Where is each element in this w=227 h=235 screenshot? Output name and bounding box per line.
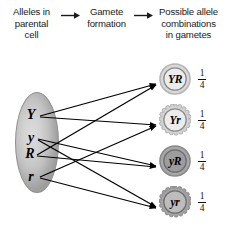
gamete-label: YR: [159, 63, 191, 95]
gamete-label: yr: [159, 186, 191, 218]
header-column-alleles: Alleles in parental cell: [3, 6, 61, 41]
gamete-fraction: 1 4: [198, 191, 206, 213]
fraction-numerator: 1: [199, 68, 206, 79]
gamete-formation-diagram: Alleles in parental cell Gamete formatio…: [0, 0, 227, 235]
fraction-numerator: 1: [199, 150, 206, 161]
gamete-cell-scalloped: Yr: [159, 104, 191, 136]
header-line: Alleles in: [3, 6, 61, 18]
gamete-row: yR 1 4: [159, 145, 227, 177]
gamete-fraction: 1 4: [198, 109, 206, 131]
arrow-r-to-yr: [40, 178, 156, 208]
header-line: combinations: [153, 18, 225, 30]
fraction-denominator: 4: [199, 162, 206, 173]
gamete-row: Yr 1 4: [159, 104, 227, 136]
right-arrow-icon: [61, 10, 80, 21]
header-line: formation: [80, 18, 134, 30]
allele-label-r: r: [23, 170, 39, 184]
header-line: cell: [3, 29, 61, 41]
header-column-possible-combinations: Possible allele combinations in gametes: [153, 6, 225, 41]
gamete-cell-smooth: YR: [159, 63, 191, 95]
fraction-denominator: 4: [199, 203, 206, 214]
right-arrow-icon: [134, 10, 153, 21]
gamete-cell-smooth: yR: [159, 145, 191, 177]
gamete-row: YR 1 4: [159, 63, 227, 95]
fraction-denominator: 4: [199, 80, 206, 91]
gamete-fraction: 1 4: [198, 68, 206, 90]
allele-label-y: y: [23, 131, 39, 145]
header-line: Possible allele: [153, 6, 225, 18]
allele-label-R: R: [22, 147, 38, 161]
diagram-header: Alleles in parental cell Gamete formatio…: [0, 6, 227, 41]
gamete-row: yr 1 4: [159, 186, 227, 218]
header-line: parental: [3, 18, 61, 30]
gamete-label: Yr: [159, 104, 191, 136]
fraction-denominator: 4: [199, 121, 206, 132]
gamete-cell-scalloped: yr: [159, 186, 191, 218]
arrow-Y-to-YR: [40, 84, 156, 116]
header-column-gamete-formation: Gamete formation: [80, 6, 134, 29]
fraction-numerator: 1: [199, 109, 206, 120]
header-line: in gametes: [153, 29, 225, 41]
header-line: Gamete: [80, 6, 134, 18]
gamete-label: yR: [159, 145, 191, 177]
fraction-numerator: 1: [199, 191, 206, 202]
allele-label-Y: Y: [23, 108, 39, 122]
gamete-fraction: 1 4: [198, 150, 206, 172]
